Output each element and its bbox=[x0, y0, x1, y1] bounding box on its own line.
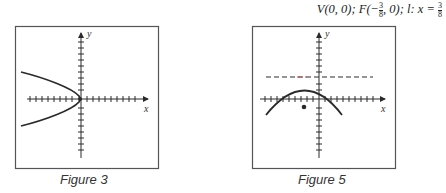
figure-3-graph: y x bbox=[16, 27, 159, 169]
figure-5-graph: y x bbox=[253, 27, 396, 169]
figure-3-caption: Figure 3 bbox=[60, 172, 108, 187]
parabola-curve bbox=[266, 91, 342, 116]
x-axis-label: x bbox=[143, 103, 149, 114]
y-axis-label: y bbox=[324, 28, 330, 39]
y-axis-label: y bbox=[86, 28, 92, 39]
vertex-point bbox=[78, 97, 82, 101]
focus-point bbox=[302, 105, 307, 110]
x-axis-label: x bbox=[380, 103, 386, 114]
figure-5-caption: Figure 5 bbox=[298, 172, 346, 187]
figures-canvas: y x bbox=[0, 0, 446, 193]
